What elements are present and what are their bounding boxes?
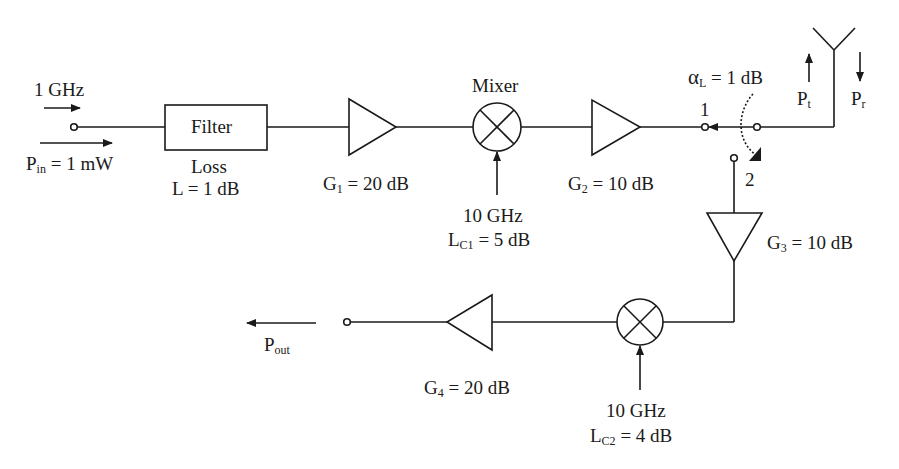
mixer1-loss-label: LC1 = 5 dB [448,230,530,251]
switch-loss-label: αL = 1 dB [688,67,763,89]
mixer1-title: Mixer [472,76,518,95]
input-terminal-icon [71,124,78,131]
mixer2-icon [617,299,663,345]
transmit-power-label: Pt [797,89,811,110]
antenna-icon [813,28,855,50]
switch-port1-terminal-icon [702,124,709,131]
switch-port2-terminal-icon [731,155,738,162]
switch-throw-arrowhead-icon [749,147,761,161]
mixer2-lo-frequency: 10 GHz [606,401,666,420]
switch-port1-label: 1 [700,100,710,119]
amplifier-g2-label: G2 = 10 dB [568,174,654,195]
rf-block-diagram: 1 GHz Pin = 1 mW Filter Loss L = 1 dB G1… [0,0,899,469]
mixer1-lo-frequency: 10 GHz [463,206,523,225]
input-frequency-label: 1 GHz [34,80,84,99]
amplifier-g1-icon [349,99,396,155]
switch-throw-arrow [741,94,756,155]
receive-power-label: Pr [851,89,866,110]
switch-common-terminal-icon [754,124,761,131]
filter-loss-value: L = 1 dB [172,179,240,198]
amplifier-g4-label: G4 = 20 dB [424,378,510,399]
amplifier-g2-icon [592,100,640,155]
mixer1-icon [473,103,521,151]
output-power-label: Pout [264,335,290,356]
amplifier-g3-icon [707,213,762,261]
filter-label: Filter [191,117,232,136]
output-terminal-icon [344,319,351,326]
amplifier-g3-label: G3 = 10 dB [767,233,853,254]
filter-loss-title: Loss [191,157,227,176]
mixer2-loss-label: LC2 = 4 dB [590,426,672,447]
switch-port2-label: 2 [745,170,755,189]
input-power-label: Pin = 1 mW [26,154,113,175]
amplifier-g4-icon [447,295,492,350]
amplifier-g1-label: G1 = 20 dB [323,174,409,195]
